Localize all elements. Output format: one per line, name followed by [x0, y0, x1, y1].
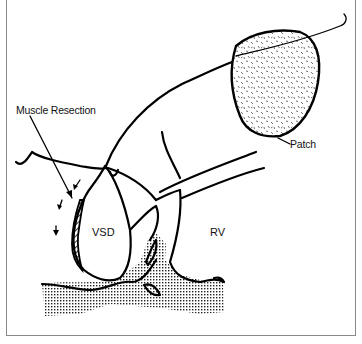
label-vsd: VSD: [92, 226, 115, 238]
aortic-wall: [162, 132, 180, 178]
moderator-band-lower: [182, 168, 264, 198]
label-rv: RV: [210, 226, 226, 238]
heart-diagram: Muscle Resection Patch VSD RV: [0, 0, 362, 344]
septal-band-right: [170, 190, 181, 262]
label-patch: Patch: [290, 138, 316, 150]
moderator-band-upper: [160, 152, 256, 192]
leader-arrowhead: [66, 190, 72, 198]
label-muscle-resection: Muscle Resection: [16, 104, 96, 116]
outflow-tract: [106, 62, 232, 166]
septal-band-left: [130, 206, 158, 240]
vsd-outline: [73, 166, 130, 280]
left-margin-suture: [16, 152, 106, 169]
muscle-resection-leader: [30, 116, 72, 198]
septal-tissue-stipple: [42, 232, 224, 316]
patch-leader: [278, 138, 290, 144]
muscle-resection-band: [72, 200, 84, 270]
